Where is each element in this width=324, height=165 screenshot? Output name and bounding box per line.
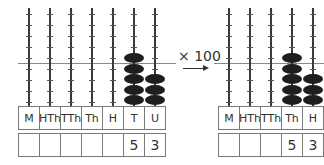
rod-tick [226,14,232,15]
rod-tick [268,91,274,92]
rod-tick [226,58,232,59]
label-cell: H [302,106,324,130]
label-cell: Th [281,106,303,130]
abacus-bead [282,64,302,74]
rod-tick [268,58,274,59]
right-abacus: M HTh TTh Th H 5 3 [0,0,324,165]
rod-tick [268,102,274,103]
label-cell: HTh [239,106,261,130]
rod-tick [226,102,232,103]
abacus-rod [270,8,272,106]
abacus-bead [282,95,302,105]
abacus-bead [282,53,302,63]
abacus-bead [282,74,302,84]
label-cell: TTh [260,106,282,130]
rod-tick [226,80,232,81]
rod-tick [247,91,253,92]
right-value-row: 5 3 [218,133,324,157]
abacus-bead [303,74,323,84]
rod-tick [226,91,232,92]
rod-tick [268,25,274,26]
value-cell: 3 [302,133,324,157]
rod-tick [310,69,316,70]
value-cell [239,133,261,157]
abacus-bead [303,85,323,95]
abacus-bead [303,95,323,105]
rod-tick [226,69,232,70]
rod-tick [289,25,295,26]
place-divider-line [214,63,324,64]
rod-tick [310,25,316,26]
rod-tick [247,36,253,37]
rod-tick [247,25,253,26]
abacus-rod [249,8,251,106]
abacus-rod [228,8,230,106]
rod-tick [247,69,253,70]
rod-tick [268,47,274,48]
rod-tick [226,25,232,26]
value-cell: 5 [281,133,303,157]
rod-tick [268,36,274,37]
rod-tick [289,14,295,15]
rod-tick [310,36,316,37]
rod-tick [247,102,253,103]
right-column-labels: M HTh TTh Th H [218,106,324,130]
rod-tick [226,47,232,48]
rod-tick [310,14,316,15]
rod-tick [247,14,253,15]
rod-tick [310,58,316,59]
value-cell [218,133,240,157]
rod-tick [226,36,232,37]
value-cell [260,133,282,157]
rod-tick [289,47,295,48]
rod-tick [310,47,316,48]
abacus-bead [282,85,302,95]
rod-tick [247,80,253,81]
rod-tick [268,80,274,81]
rod-tick [289,36,295,37]
rod-tick [247,58,253,59]
label-cell: M [218,106,240,130]
rod-tick [268,14,274,15]
rod-tick [268,69,274,70]
rod-tick [247,47,253,48]
